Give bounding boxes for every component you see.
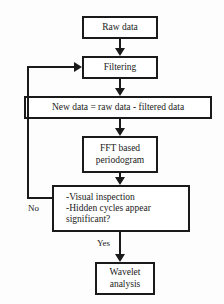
- arrow-down-icon: [115, 48, 125, 56]
- flowchart-diagram: Raw data Filtering New data = raw data -…: [0, 0, 224, 304]
- arrow-down-icon: [115, 88, 125, 96]
- edge-new-data-to-fft: [119, 119, 121, 128]
- edge-feedback-horizontal-top: [27, 66, 75, 68]
- arrow-down-icon: [115, 254, 125, 262]
- node-wavelet-analysis: Wavelet analysis: [95, 262, 155, 295]
- arrow-down-icon: [115, 177, 125, 185]
- node-decision-label: -Visual inspection -Hidden cycles appear…: [66, 192, 188, 226]
- node-fft-periodogram: FFT based periodogram: [82, 136, 158, 173]
- edge-decision-to-wavelet: [119, 232, 121, 254]
- arrow-down-icon: [115, 128, 125, 136]
- edge-label-no: No: [28, 204, 39, 213]
- edge-feedback-horizontal-bottom: [27, 197, 52, 199]
- node-fft-periodogram-label: FFT based periodogram: [84, 143, 156, 165]
- node-decision-visual-inspection: -Visual inspection -Hidden cycles appear…: [52, 185, 190, 232]
- node-new-data-label: New data = raw data - filtered data: [26, 102, 210, 113]
- node-raw-data: Raw data: [82, 16, 158, 39]
- arrow-right-icon: [74, 62, 82, 72]
- node-raw-data-label: Raw data: [84, 22, 156, 33]
- node-filtering: Filtering: [82, 56, 158, 79]
- edge-raw-data-to-filtering: [119, 39, 121, 48]
- node-new-data: New data = raw data - filtered data: [24, 96, 212, 119]
- edge-filtering-to-new-data: [119, 79, 121, 88]
- edge-label-yes: Yes: [97, 239, 110, 248]
- edge-feedback-vertical: [27, 66, 29, 199]
- node-wavelet-analysis-label: Wavelet analysis: [97, 267, 153, 289]
- node-filtering-label: Filtering: [84, 62, 156, 73]
